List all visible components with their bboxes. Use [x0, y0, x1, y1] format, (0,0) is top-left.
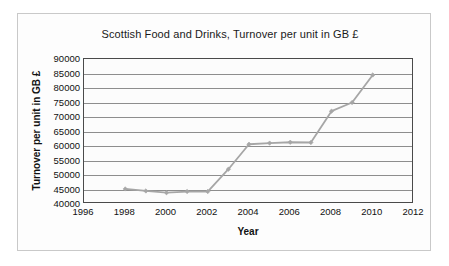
plot-area: [83, 58, 413, 203]
chart-title: Scottish Food and Drinks, Turnover per u…: [40, 28, 420, 40]
y-axis-tick-label: 50000: [36, 169, 80, 180]
x-axis-tick-label: 2002: [187, 206, 227, 217]
data-point-marker: [185, 189, 189, 193]
x-axis-tick-label: 1996: [63, 206, 103, 217]
x-axis-tick-label: 2006: [269, 206, 309, 217]
x-axis-tick-label: 1998: [104, 206, 144, 217]
data-point-marker: [267, 141, 271, 145]
data-point-marker: [164, 190, 168, 194]
y-axis-tick-labels: 4000045000500005500060000650007000075000…: [36, 58, 80, 203]
y-axis-tick-label: 55000: [36, 154, 80, 165]
y-axis-tick-label: 85000: [36, 67, 80, 78]
x-axis-tick-label: 2004: [228, 206, 268, 217]
x-axis-tick-label: 2012: [393, 206, 433, 217]
chart-figure: Scottish Food and Drinks, Turnover per u…: [0, 0, 449, 266]
series-polyline: [125, 75, 373, 193]
y-axis-tick-label: 65000: [36, 125, 80, 136]
x-axis-tick-labels: 199619982000200220042006200820102012: [83, 206, 413, 222]
y-axis-tick-label: 60000: [36, 140, 80, 151]
y-axis-tick-label: 90000: [36, 53, 80, 64]
x-axis-tick-label: 2008: [311, 206, 351, 217]
x-axis-title: Year: [83, 226, 413, 237]
data-point-marker: [288, 140, 292, 144]
x-axis-tick-label: 2000: [146, 206, 186, 217]
data-point-marker: [144, 189, 148, 193]
x-axis-tick-label: 2010: [352, 206, 392, 217]
y-axis-tick-label: 70000: [36, 111, 80, 122]
data-point-marker: [123, 187, 127, 191]
y-axis-tick-label: 80000: [36, 82, 80, 93]
y-axis-tick-label: 45000: [36, 183, 80, 194]
y-axis-tick-label: 75000: [36, 96, 80, 107]
data-series-line: [84, 59, 413, 203]
